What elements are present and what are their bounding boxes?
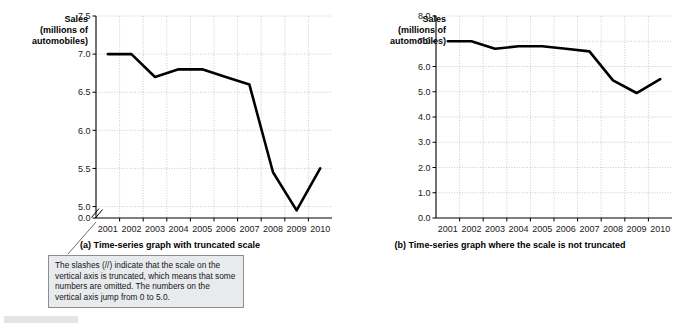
truncated-scale-callout: The slashes (//) indicate that the scale…	[48, 255, 244, 308]
figure-two-time-series-graphs: Sales (millions of automobiles) 0.05.05.…	[0, 0, 680, 328]
callout-text: The slashes (//) indicate that the scale…	[55, 260, 235, 302]
footer-decoration-bar	[4, 316, 78, 323]
